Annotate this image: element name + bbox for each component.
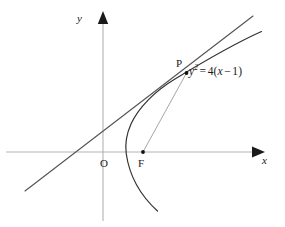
y-axis-arrow-icon bbox=[98, 11, 108, 24]
equation-minus-sign: − bbox=[223, 65, 233, 77]
origin-label: O bbox=[100, 158, 108, 169]
point-p-label: P bbox=[176, 58, 182, 69]
equation-equals-sign: = bbox=[198, 65, 208, 77]
x-axis-label: x bbox=[262, 155, 267, 166]
figure-canvas bbox=[0, 0, 285, 227]
point-p-marker bbox=[185, 71, 189, 75]
equation-variable: x bbox=[217, 65, 222, 77]
equation-close-paren: ) bbox=[238, 65, 242, 77]
parabola-curve bbox=[126, 32, 262, 212]
focus-label: F bbox=[138, 158, 144, 169]
parabola-equation-label: y2=4(x−1) bbox=[189, 66, 242, 78]
y-axis-label: y bbox=[77, 13, 82, 24]
point-f-marker bbox=[141, 150, 145, 154]
focal-segment bbox=[143, 73, 187, 152]
parabola-figure: y x O F P y2=4(x−1) bbox=[0, 0, 285, 227]
